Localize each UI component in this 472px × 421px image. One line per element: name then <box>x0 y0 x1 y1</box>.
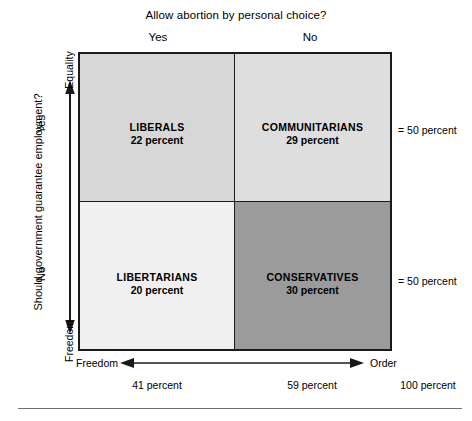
quadrant-liberals-block: LIBERALS 22 percent <box>130 121 185 147</box>
quadrant-conservatives[interactable]: CONSERVATIVES 30 percent <box>235 202 390 350</box>
quadrant-conservatives-value: 30 percent <box>266 284 358 297</box>
quadrant-matrix: LIBERALS 22 percent COMMUNITARIANS 29 pe… <box>78 52 392 351</box>
quadrant-communitarians[interactable]: COMMUNITARIANS 29 percent <box>235 54 390 202</box>
quadrant-libertarians[interactable]: LIBERTARIANS 20 percent <box>80 202 235 350</box>
row-header-yes: Yes <box>35 104 47 144</box>
vertical-axis-bottom-label: Freedom <box>63 306 75 376</box>
quadrant-libertarians-block: LIBERTARIANS 20 percent <box>117 271 198 297</box>
quadrant-conservatives-name: CONSERVATIVES <box>266 271 358 284</box>
quadrant-liberals-name: LIBERALS <box>130 121 185 134</box>
quadrant-liberals-value: 22 percent <box>130 134 185 147</box>
vertical-axis-top-label: Equality <box>63 35 75 105</box>
row-total-top: = 50 percent <box>398 124 457 136</box>
column-total-right: 59 percent <box>267 379 357 391</box>
quadrant-conservatives-block: CONSERVATIVES 30 percent <box>266 271 358 297</box>
bottom-divider <box>18 408 462 409</box>
horizontal-axis-left-label: Freedom <box>76 357 118 369</box>
horizontal-axis-right-label: Order <box>370 357 397 369</box>
page-title: Allow abortion by personal choice? <box>0 9 472 21</box>
row-header-no: No <box>35 254 47 294</box>
column-total-left: 41 percent <box>112 379 202 391</box>
horizontal-axis-arrow <box>118 356 366 370</box>
column-header-no: No <box>280 31 340 43</box>
quadrant-liberals[interactable]: LIBERALS 22 percent <box>80 54 235 202</box>
quadrant-communitarians-block: COMMUNITARIANS 29 percent <box>262 121 363 147</box>
quadrant-communitarians-value: 29 percent <box>262 134 363 147</box>
quadrant-communitarians-name: COMMUNITARIANS <box>262 121 363 134</box>
row-total-bottom: = 50 percent <box>398 275 457 287</box>
column-header-yes: Yes <box>128 31 188 43</box>
quadrant-libertarians-value: 20 percent <box>117 284 198 297</box>
quadrant-libertarians-name: LIBERTARIANS <box>117 271 198 284</box>
grand-total: 100 percent <box>383 379 472 391</box>
